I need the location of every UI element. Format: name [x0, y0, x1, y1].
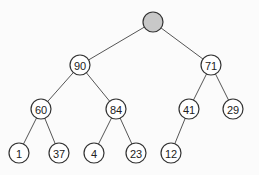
tree-node: 60	[31, 99, 51, 119]
tree-edge	[153, 22, 211, 65]
tree-node: 84	[106, 99, 126, 119]
node-label: 1	[16, 148, 22, 160]
tree-node: 29	[223, 99, 243, 119]
node-label: 23	[130, 148, 142, 160]
node-label: 29	[227, 104, 239, 116]
node-label: 60	[35, 104, 47, 116]
node-label: 37	[53, 148, 65, 160]
tree-node: 71	[201, 55, 221, 75]
binary-heap-tree: 90716084412913742312	[0, 0, 259, 175]
tree-node: 41	[179, 99, 199, 119]
node-circle	[143, 12, 163, 32]
tree-node: 23	[126, 143, 146, 163]
node-label: 84	[110, 104, 122, 116]
tree-node: 12	[161, 143, 181, 163]
tree-edge	[80, 22, 153, 65]
node-label: 71	[205, 60, 217, 72]
tree-node: 37	[49, 143, 69, 163]
tree-node: 1	[9, 143, 29, 163]
node-label: 4	[91, 148, 97, 160]
tree-node: 4	[84, 143, 104, 163]
node-label: 41	[183, 104, 195, 116]
tree-node: 90	[70, 55, 90, 75]
node-label: 90	[74, 60, 86, 72]
nodes: 90716084412913742312	[9, 12, 243, 163]
edges	[19, 22, 233, 153]
tree-node-root	[143, 12, 163, 32]
node-label: 12	[165, 148, 177, 160]
